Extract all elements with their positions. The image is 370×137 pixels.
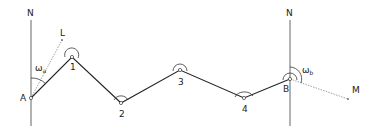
point-L-marker bbox=[61, 39, 63, 41]
station-2-marker bbox=[119, 101, 122, 104]
label-B: B bbox=[283, 84, 289, 94]
label-station-4: 4 bbox=[242, 104, 248, 114]
traverse-diagram: N N L M A B 1 2 3 4 ωa ωb bbox=[0, 0, 370, 137]
label-L: L bbox=[60, 28, 65, 38]
station-4-marker bbox=[242, 96, 245, 99]
north-label-right: N bbox=[286, 8, 293, 18]
station-1-marker bbox=[70, 55, 73, 58]
label-station-1: 1 bbox=[70, 62, 76, 72]
north-label-left: N bbox=[27, 8, 34, 18]
label-M: M bbox=[352, 85, 360, 95]
label-station-2: 2 bbox=[119, 109, 125, 119]
omega-b-symbol: ωb bbox=[302, 65, 314, 76]
diagram-svg: N N L M A B 1 2 3 4 ωa ωb bbox=[0, 0, 370, 137]
label-station-3: 3 bbox=[178, 77, 184, 87]
point-M-marker bbox=[347, 98, 349, 100]
station-A-marker bbox=[29, 96, 32, 99]
omega-a-symbol: ωa bbox=[35, 63, 47, 74]
angle-arc-2 bbox=[114, 96, 128, 100]
station-B-marker bbox=[288, 77, 291, 80]
station-3-marker bbox=[178, 68, 181, 71]
label-A: A bbox=[20, 93, 27, 103]
foresight-line-BM bbox=[290, 79, 348, 99]
